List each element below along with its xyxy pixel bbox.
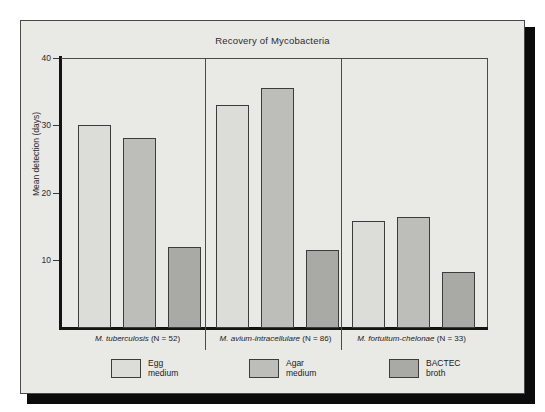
plot-area xyxy=(61,58,488,327)
legend-label: BACTECbroth xyxy=(426,359,460,378)
legend: EggmediumAgarmediumBACTECbroth xyxy=(21,357,526,391)
legend-label: Agarmedium xyxy=(286,359,316,378)
group-separator xyxy=(205,58,206,350)
y-axis-tick-label: 10 xyxy=(25,255,51,265)
bar xyxy=(78,125,111,328)
figure-panel: Recovery of Mycobacteria Mean detection … xyxy=(20,20,525,394)
y-axis-tick-label: 20 xyxy=(25,188,51,198)
y-axis-tick-label: 40 xyxy=(25,53,51,63)
bar xyxy=(306,250,339,328)
chart-title: Recovery of Mycobacteria xyxy=(21,35,524,46)
legend-item[interactable]: BACTECbroth xyxy=(389,359,460,378)
legend-item[interactable]: Agarmedium xyxy=(249,359,316,378)
group-separator xyxy=(341,58,342,350)
y-axis-title: Mean detection (days) xyxy=(31,79,41,229)
bar xyxy=(352,221,385,328)
legend-swatch xyxy=(249,359,279,378)
legend-item[interactable]: Eggmedium xyxy=(111,359,178,378)
bar xyxy=(216,105,249,328)
y-axis-tick-label: 30 xyxy=(25,120,51,130)
legend-label: Eggmedium xyxy=(148,359,178,378)
bar xyxy=(397,217,430,328)
bar xyxy=(442,272,475,328)
bar xyxy=(168,247,201,328)
legend-swatch xyxy=(389,359,419,378)
x-axis-group-label: M. tuberculosis (N = 52) xyxy=(69,334,206,343)
bar xyxy=(261,88,294,328)
figure-root: Recovery of Mycobacteria Mean detection … xyxy=(0,0,545,412)
bar xyxy=(123,138,156,328)
x-axis-group-label: M. fortuitum-chelonae (N = 33) xyxy=(343,334,480,343)
x-axis-group-label: M. avium-intracellulare (N = 86) xyxy=(207,334,344,343)
legend-swatch xyxy=(111,359,141,378)
